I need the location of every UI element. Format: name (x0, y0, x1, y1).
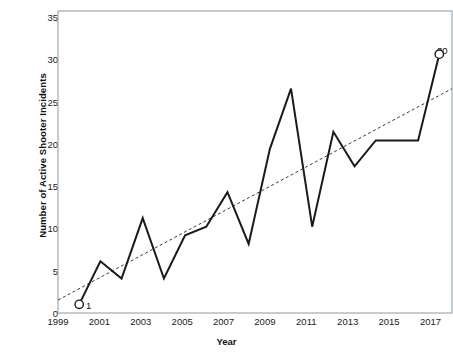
chart-figure: Number of Active Shooter Incidents Year … (0, 0, 453, 354)
last-point-marker (435, 50, 443, 58)
data-line (79, 54, 439, 304)
plot-border (58, 11, 452, 313)
trend-line (58, 89, 452, 300)
plot-area (0, 0, 453, 354)
first-point-marker (75, 300, 83, 308)
